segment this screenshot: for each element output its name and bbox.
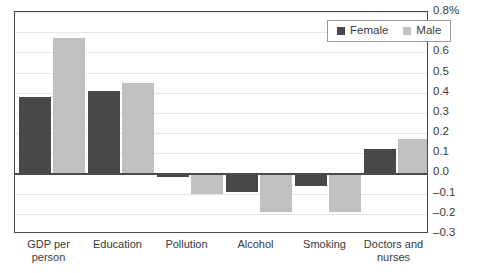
plot-area — [14, 11, 428, 233]
legend: Female Male — [327, 20, 451, 42]
bar-female[interactable] — [226, 173, 258, 191]
bar-male[interactable] — [122, 83, 154, 174]
y-axis-tick-label: –0.1 — [433, 187, 455, 199]
bar-female[interactable] — [295, 173, 327, 185]
x-axis-tick-label: Pollution — [152, 238, 221, 251]
y-axis-tick-label: –0.2 — [433, 207, 455, 219]
legend-entry-male[interactable]: Male — [403, 25, 441, 37]
bar-female[interactable] — [88, 91, 120, 174]
bar-female[interactable] — [364, 149, 396, 173]
legend-entry-female[interactable]: Female — [337, 25, 388, 37]
x-axis: GDP per personEducationPollutionAlcoholS… — [14, 238, 428, 272]
bar-female[interactable] — [19, 97, 51, 174]
bar-group — [291, 12, 360, 232]
x-axis-tick-label: Education — [83, 238, 152, 251]
bar-male[interactable] — [191, 173, 223, 193]
legend-label-female: Female — [350, 25, 388, 37]
bar-group — [15, 12, 84, 232]
bar-group — [153, 12, 222, 232]
x-axis-tick-label: Doctors and nurses — [359, 238, 428, 264]
y-axis-tick-label: 0.4 — [433, 86, 449, 98]
legend-swatch-male-icon — [403, 27, 411, 35]
bars-layer — [15, 12, 427, 232]
bar-group — [84, 12, 153, 232]
y-axis-tick-label: 0.3 — [433, 106, 449, 118]
legend-label-male: Male — [416, 25, 441, 37]
bar-group — [222, 12, 291, 232]
zero-line — [15, 173, 427, 174]
y-axis-tick-label: 0.0 — [433, 166, 449, 178]
x-axis-tick-label: GDP per person — [14, 238, 83, 264]
clipped-title-remnant — [30, 0, 370, 1]
y-axis-tick-label: 0.8% — [433, 5, 459, 17]
y-axis-tick-label: 0.2 — [433, 126, 449, 138]
bar-group — [360, 12, 427, 232]
y-axis: 0.8%0.70.60.50.40.30.20.10.0–0.1–0.2–0.3 — [433, 11, 495, 233]
x-axis-tick-label: Alcohol — [221, 238, 290, 251]
y-axis-tick-label: 0.1 — [433, 146, 449, 158]
x-axis-tick-label: Smoking — [290, 238, 359, 251]
bar-chart: 0.8%0.70.60.50.40.30.20.10.0–0.1–0.2–0.3… — [0, 0, 500, 273]
y-axis-tick-label: 0.5 — [433, 66, 449, 78]
plot-inner — [15, 12, 427, 232]
bar-male[interactable] — [329, 173, 361, 211]
bar-male[interactable] — [398, 139, 427, 173]
y-axis-tick-label: 0.6 — [433, 45, 449, 57]
legend-swatch-female-icon — [337, 27, 345, 35]
bar-male[interactable] — [260, 173, 292, 211]
bar-male[interactable] — [53, 38, 85, 173]
y-axis-tick-label: –0.3 — [433, 227, 455, 239]
